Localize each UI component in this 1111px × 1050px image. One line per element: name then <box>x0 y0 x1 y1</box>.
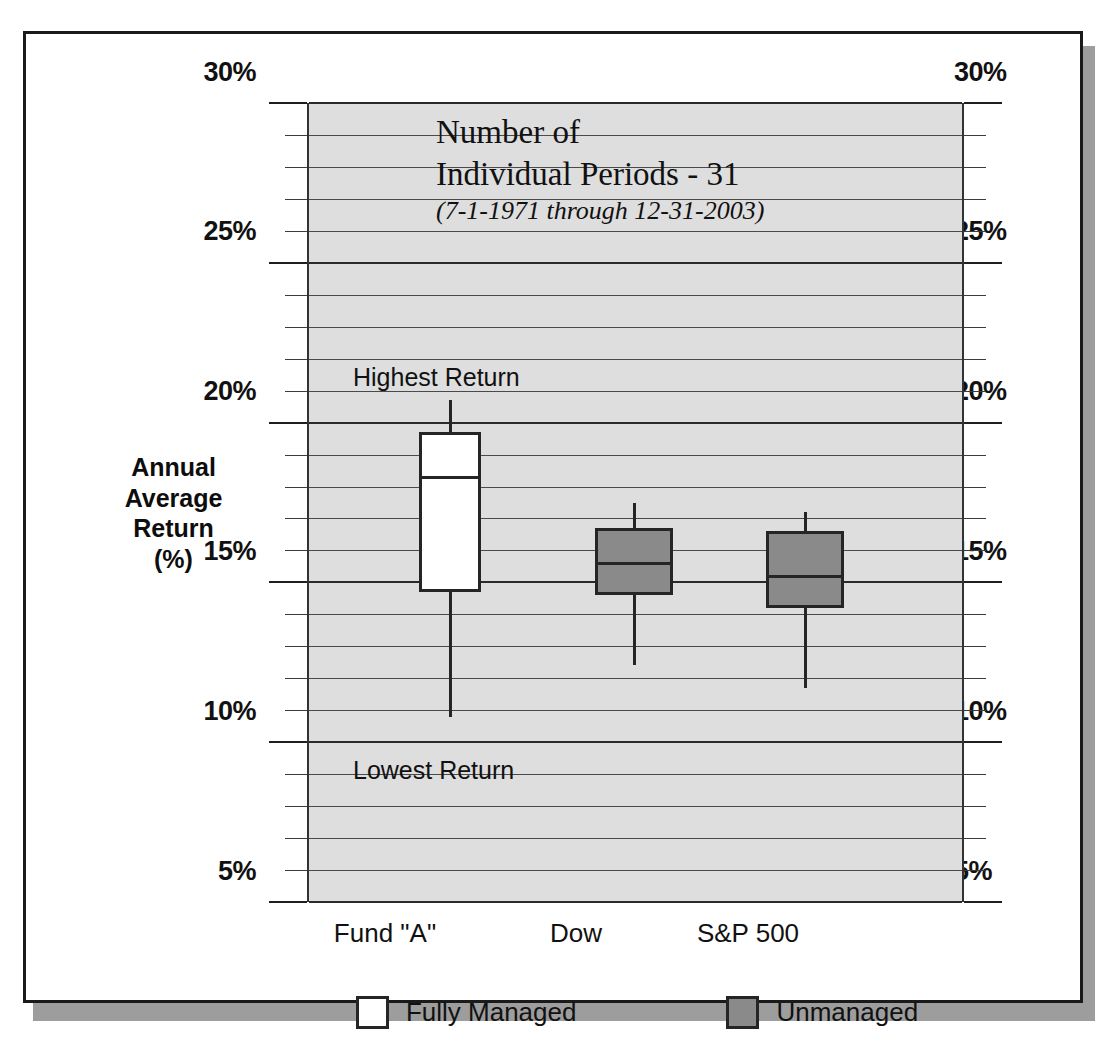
y-tick-mark-right <box>964 102 1002 104</box>
whisker-upper <box>633 503 636 529</box>
y-tick-mark-left <box>285 359 307 360</box>
legend: Fully Managed Unmanaged <box>307 996 967 1029</box>
y-tick-mark-left <box>285 167 307 168</box>
y-tick-mark-right <box>964 262 1002 264</box>
y-axis-title-line-1: Annual <box>86 452 261 483</box>
y-tick-mark-right <box>964 455 986 456</box>
legend-entry-fully-managed[interactable]: Fully Managed <box>356 996 577 1029</box>
y-tick-label-left-10: 10% <box>116 696 256 727</box>
x-tick-label-dow: Dow <box>496 918 656 949</box>
y-tick-mark-right <box>964 359 986 360</box>
box-iqr <box>766 531 844 608</box>
box-iqr <box>419 432 481 592</box>
plot-area: Number of Individual Periods - 31 (7-1-1… <box>307 103 964 902</box>
y-tick-mark-right <box>964 231 986 232</box>
y-tick-label-left-15: 15% <box>116 536 256 567</box>
y-tick-mark-left <box>285 550 307 551</box>
legend-swatch-white-icon <box>356 996 389 1029</box>
y-tick-mark-left <box>285 231 307 232</box>
median-line <box>766 575 844 578</box>
median-line <box>419 476 481 479</box>
y-tick-mark-right <box>964 741 1002 743</box>
y-tick-label-right-30: 30% <box>954 57 1094 88</box>
y-tick-mark-left <box>285 678 307 679</box>
y-tick-mark-right <box>964 487 986 488</box>
y-tick-mark-left <box>269 901 307 903</box>
y-tick-mark-left <box>285 135 307 136</box>
y-tick-mark-right <box>964 678 986 679</box>
y-tick-mark-left <box>285 806 307 807</box>
whisker-lower <box>633 595 636 665</box>
y-tick-mark-right <box>964 295 986 296</box>
annotation-lowest-return: Lowest Return <box>353 756 514 785</box>
x-tick-label-sp500: S&P 500 <box>663 918 833 949</box>
y-tick-label-left-20: 20% <box>116 376 256 407</box>
y-tick-mark-right <box>964 901 1002 903</box>
y-tick-label-left-25: 25% <box>116 216 256 247</box>
y-tick-mark-right <box>964 806 986 807</box>
legend-label-unmanaged: Unmanaged <box>776 997 918 1028</box>
y-tick-mark-right <box>964 838 986 839</box>
median-line <box>595 562 673 565</box>
y-tick-mark-left <box>269 262 307 264</box>
figure-frame: Annual Average Return (%) 30% 25% 20% 15… <box>23 31 1083 1003</box>
y-tick-mark-left <box>285 391 307 392</box>
chart-title-line-2: Individual Periods - 31 <box>436 154 836 196</box>
y-tick-mark-left <box>285 838 307 839</box>
y-tick-mark-right <box>964 327 986 328</box>
legend-label-fully-managed: Fully Managed <box>406 997 577 1028</box>
y-tick-mark-left <box>269 422 307 424</box>
y-tick-label-left-5: 5% <box>116 856 256 887</box>
annotation-highest-return: Highest Return <box>353 363 520 392</box>
y-tick-mark-left <box>269 102 307 104</box>
y-tick-mark-left <box>285 455 307 456</box>
y-tick-mark-right <box>964 422 1002 424</box>
y-tick-mark-left <box>285 614 307 615</box>
y-tick-mark-left <box>285 870 307 871</box>
y-tick-mark-left <box>285 646 307 647</box>
y-tick-mark-right <box>964 550 986 551</box>
legend-entry-unmanaged[interactable]: Unmanaged <box>726 996 918 1029</box>
y-tick-mark-right <box>964 135 986 136</box>
y-axis-title-line-2: Average <box>86 483 261 514</box>
legend-swatch-gray-icon <box>726 996 759 1029</box>
chart-title-block: Number of Individual Periods - 31 (7-1-1… <box>436 112 836 226</box>
y-tick-mark-right <box>964 646 986 647</box>
chart-title-line-1: Number of <box>436 112 836 154</box>
y-tick-mark-left <box>285 774 307 775</box>
y-tick-mark-right <box>964 581 1002 583</box>
y-tick-mark-right <box>964 518 986 519</box>
x-tick-label-fund-a: Fund "A" <box>305 918 465 949</box>
chart-subtitle: (7-1-1971 through 12-31-2003) <box>436 196 836 226</box>
y-tick-mark-right <box>964 774 986 775</box>
whisker-lower <box>804 608 807 688</box>
y-tick-mark-left <box>285 518 307 519</box>
y-tick-mark-right <box>964 391 986 392</box>
y-tick-label-right-10: 10% <box>954 696 1094 727</box>
y-tick-mark-right <box>964 710 986 711</box>
y-tick-mark-right <box>964 167 986 168</box>
y-tick-mark-right <box>964 870 986 871</box>
y-tick-mark-right <box>964 199 986 200</box>
y-tick-label-right-5: 5% <box>954 856 1094 887</box>
y-tick-mark-left <box>285 487 307 488</box>
whisker-lower <box>449 592 452 717</box>
y-tick-mark-left <box>285 327 307 328</box>
y-tick-label-left-30: 30% <box>116 57 256 88</box>
whisker-upper <box>449 400 452 432</box>
y-tick-mark-right <box>964 614 986 615</box>
y-tick-label-right-15: 15% <box>954 536 1094 567</box>
y-tick-mark-left <box>285 199 307 200</box>
y-tick-mark-left <box>285 710 307 711</box>
y-tick-mark-left <box>269 741 307 743</box>
y-tick-mark-left <box>269 581 307 583</box>
y-tick-mark-left <box>285 295 307 296</box>
whisker-upper <box>804 512 807 531</box>
